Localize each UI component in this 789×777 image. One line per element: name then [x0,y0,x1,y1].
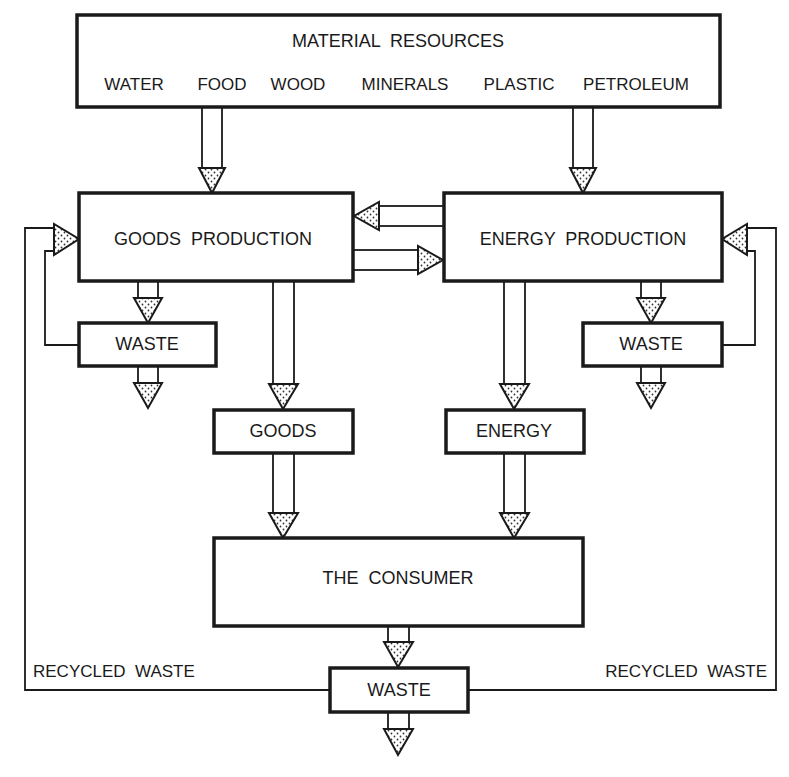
arrow-stem-goods-consumer [273,453,294,514]
arrow-stem-goods-to-energy [353,250,419,270]
waste-right-box: WASTE [583,323,722,366]
arrow-head-consumer-waste [384,642,413,667]
arrow-stem-resources-goods [202,107,222,169]
arrow-head-energy-to-goods [354,202,379,230]
energy-production-box: ENERGY PRODUCTION [444,193,722,281]
waste-bottom-label: WASTE [367,680,430,700]
arrow-head-production-goods [269,384,298,409]
arrow-head-resources-goods [199,168,225,193]
recycled-waste-right-label: RECYCLED WASTE [605,662,767,681]
arrow-head-production-energy [500,384,529,409]
arrow-stem-production-goods [273,281,294,385]
energy-label: ENERGY [476,421,552,441]
goods-box: GOODS [214,410,353,453]
goods-production-label: GOODS PRODUCTION [114,229,312,249]
consumer-box: THE CONSUMER [214,538,583,626]
arrow-head-goods-to-energy [418,246,443,274]
waste-right-label: WASTE [619,334,682,354]
resource-water: WATER [104,75,164,94]
waste-left-label: WASTE [115,334,178,354]
goods-production-box: GOODS PRODUCTION [79,193,353,281]
resource-food: FOOD [197,75,246,94]
arrow-head-waste-right-out [637,383,665,408]
goods-label: GOODS [249,421,316,441]
resource-petroleum: PETROLEUM [583,75,689,94]
arrow-stem-goods-waste [138,281,158,299]
resource-wood: WOOD [271,75,326,94]
arrow-head-recycle-goods [54,224,79,255]
waste-loop-right [722,251,755,345]
arrow-head-goods-waste [134,298,162,323]
arrow-stem-waste-bottom-out [388,712,409,730]
arrow-stem-energy-waste [641,281,661,299]
waste-loop-left [45,251,79,345]
material-flow-diagram: MATERIAL RESOURCES WATER FOOD WOOD MINER… [0,0,789,777]
arrow-head-energy-waste [637,298,665,323]
recycled-waste-left-label: RECYCLED WASTE [33,662,195,681]
arrow-stem-waste-right-out [641,366,661,384]
arrow-head-resources-energy [570,168,596,193]
arrow-stem-waste-left-out [138,366,158,384]
material-resources-title: MATERIAL RESOURCES [292,31,504,51]
waste-bottom-box: WASTE [330,668,468,712]
material-resources-box: MATERIAL RESOURCES WATER FOOD WOOD MINER… [77,15,720,107]
arrow-head-waste-left-out [134,383,162,408]
arrow-head-goods-consumer [269,513,298,538]
arrow-head-energy-consumer [500,513,529,538]
waste-left-box: WASTE [79,323,216,366]
consumer-label: THE CONSUMER [322,568,473,588]
arrow-stem-production-energy [504,281,525,385]
arrow-stem-energy-consumer [504,453,525,514]
arrow-stem-resources-energy [573,107,593,169]
energy-box: ENERGY [446,410,584,453]
arrow-stem-consumer-waste [388,626,409,643]
arrow-stem-energy-to-goods [378,206,444,226]
energy-production-label: ENERGY PRODUCTION [480,229,687,249]
resource-minerals: MINERALS [362,75,449,94]
arrow-head-waste-bottom-out [384,729,413,755]
resource-plastic: PLASTIC [484,75,555,94]
arrow-head-recycle-energy [722,224,747,255]
